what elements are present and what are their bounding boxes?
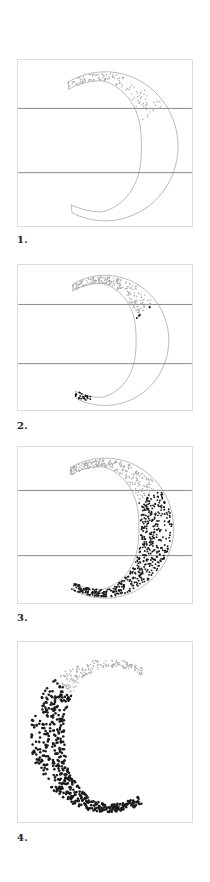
figure-label-3: 3. xyxy=(17,612,28,623)
letter-c-stipple-illustration xyxy=(18,265,192,410)
figure-frame-3 xyxy=(17,446,193,604)
figure-label-2: 2. xyxy=(17,420,28,431)
figure-label-4: 4. xyxy=(17,832,28,843)
letter-c-stipple-illustration xyxy=(18,642,192,822)
letter-c-stipple-illustration xyxy=(18,447,192,603)
letter-c-stipple-illustration xyxy=(18,60,192,226)
figure-frame-1 xyxy=(17,59,193,227)
figure-frame-4 xyxy=(17,641,193,823)
figure-label-1: 1. xyxy=(17,234,28,245)
figure-frame-2 xyxy=(17,264,193,411)
